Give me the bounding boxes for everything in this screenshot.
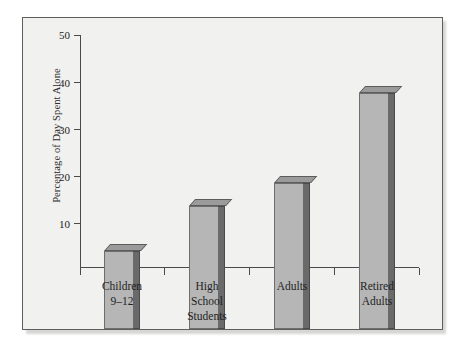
x-label-retired-adults: Retired Adults xyxy=(335,279,419,309)
y-tick-40: 40 xyxy=(74,82,81,83)
y-tick-label-10: 10 xyxy=(59,218,70,230)
x-label-line: High xyxy=(165,279,249,294)
bar-top xyxy=(359,86,402,93)
x-tick-2 xyxy=(249,268,250,275)
x-tick-4 xyxy=(419,268,420,275)
chart-area: Percentage of Day Spent Alone 10 20 30 4… xyxy=(23,18,442,329)
figure-root: Percentage of Day Spent Alone 10 20 30 4… xyxy=(0,0,464,346)
x-label-line: Retired xyxy=(335,279,419,294)
chart-plate: Percentage of Day Spent Alone 10 20 30 4… xyxy=(22,17,443,330)
x-tick-1 xyxy=(164,268,165,275)
bar-top xyxy=(274,176,317,183)
x-label-line: Adults xyxy=(250,279,334,294)
bar-side xyxy=(303,183,310,329)
x-label-line: Adults xyxy=(335,294,419,309)
x-label-line: Children xyxy=(80,279,164,294)
x-label-line: Students xyxy=(165,309,249,324)
y-tick-label-20: 20 xyxy=(59,171,70,183)
x-label-line: School xyxy=(165,294,249,309)
bar-face xyxy=(274,183,304,329)
y-tick-label-50: 50 xyxy=(59,29,70,41)
bar-top xyxy=(189,199,232,206)
bar-top xyxy=(104,244,147,251)
x-label-adults: Adults xyxy=(250,279,334,294)
y-tick-label-30: 30 xyxy=(59,124,70,136)
y-tick-20: 20 xyxy=(74,176,81,177)
y-tick-50: 50 xyxy=(74,35,81,36)
x-tick-3 xyxy=(334,268,335,275)
y-tick-30: 30 xyxy=(74,129,81,130)
x-label-line: 9–12 xyxy=(80,294,164,309)
x-label-children-9-12: Children 9–12 xyxy=(80,279,164,309)
y-tick-10: 10 xyxy=(74,223,81,224)
y-tick-label-40: 40 xyxy=(59,77,70,89)
x-label-high-school-students: High School Students xyxy=(165,279,249,324)
x-tick-0 xyxy=(80,268,81,275)
y-axis-line xyxy=(80,35,81,268)
